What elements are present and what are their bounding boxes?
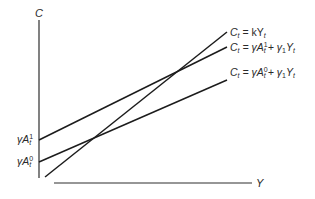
svg-text:Ct= γA0t+ γ1Yt: Ct= γA0t+ γ1Yt (230, 66, 296, 79)
line-c-equals-ky (45, 32, 227, 177)
line-c-equals-a1 (39, 47, 227, 140)
consumption-diagram: C Y Ct= kYt Ct= γA1t+ γ1Yt Ct= γA0t+ γ1Y… (0, 0, 315, 199)
svg-text:γA1t: γA1t (17, 133, 33, 146)
y-axis-label: C (35, 7, 43, 19)
intercept-label-a0: γA0t (17, 155, 33, 168)
svg-text:γA0t: γA0t (17, 155, 33, 168)
x-axis-label: Y (256, 177, 264, 189)
label-a1-line: Ct= γA1t+ γ1Yt (230, 41, 296, 54)
label-k-line: Ct= kYt (230, 26, 267, 39)
svg-text:Ct= kYt: Ct= kYt (230, 26, 267, 39)
line-c-equals-a0 (39, 80, 227, 162)
label-a0-line: Ct= γA0t+ γ1Yt (230, 66, 296, 79)
svg-text:Ct= γA1t+ γ1Yt: Ct= γA1t+ γ1Yt (230, 41, 296, 54)
intercept-label-a1: γA1t (17, 133, 33, 146)
